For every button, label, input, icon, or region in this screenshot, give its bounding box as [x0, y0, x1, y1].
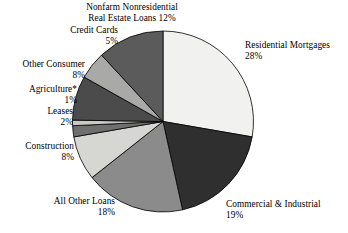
slice-label-line1: Agriculture* [0, 84, 77, 95]
slice-label-all-other-loans: All Other Loans 18% [20, 196, 115, 218]
slice-label-other-consumer: Other Consumer 8% [0, 59, 85, 81]
pie-chart: Nonfarm Nonresidential Real Estate Loans… [0, 0, 348, 233]
slice-label-commercial-and-industrial: Commercial & Industrial 19% [226, 199, 348, 221]
slice-label-residential-mortgages: Residential Mortgages 28% [245, 40, 348, 62]
slice-label-line2: 18% [20, 207, 115, 218]
slice-label-construction: Construction 8% [0, 141, 74, 163]
slice-label-credit-cards: Credit Cards 5% [14, 25, 118, 47]
slice-label-line2: 5% [14, 36, 118, 47]
slice-label-line2: 8% [0, 70, 85, 81]
slice-label-line1: Nonfarm Nonresidential [52, 2, 212, 13]
slice-label-line1: Leases [0, 106, 73, 117]
slice-label-nonfarm-nonresidential-real-estate-loans: Nonfarm Nonresidential Real Estate Loans… [52, 2, 212, 24]
slice-label-line1: Commercial & Industrial [226, 199, 348, 210]
pie-slice-group [72, 31, 253, 212]
slice-label-line1: Other Consumer [0, 59, 85, 70]
pie-slice [163, 31, 254, 137]
slice-label-line1: Credit Cards [14, 25, 118, 36]
slice-label-line2: 19% [226, 210, 348, 221]
slice-label-line1: All Other Loans [20, 196, 115, 207]
slice-label-line2: 8% [0, 152, 74, 163]
slice-label-line2: Real Estate Loans 12% [52, 13, 212, 24]
slice-label-line1: Construction [0, 141, 74, 152]
slice-label-line2: 1% [0, 95, 77, 106]
slice-label-leases: Leases 2% [0, 106, 73, 128]
slice-label-line1: Residential Mortgages [245, 40, 348, 51]
slice-label-line2: 2% [0, 117, 73, 128]
slice-label-agriculture: Agriculture* 1% [0, 84, 77, 106]
slice-label-line2: 28% [245, 51, 348, 62]
